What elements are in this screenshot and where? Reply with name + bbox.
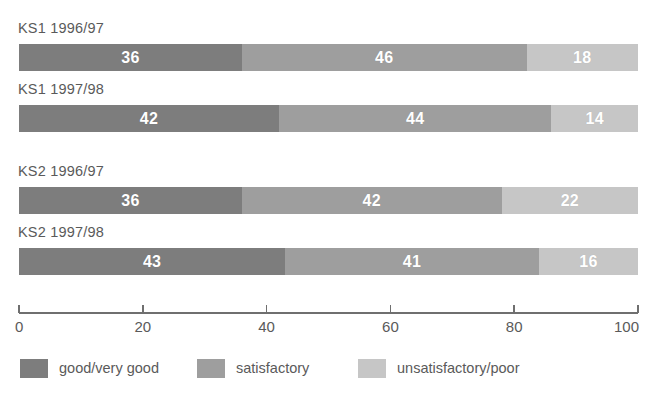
stacked-bar: 424414 [19, 105, 638, 132]
axis-tick-label: 0 [15, 318, 23, 335]
legend-swatch-icon [358, 359, 386, 378]
bar-segment: 22 [502, 187, 638, 214]
bar-segment-value: 36 [121, 193, 139, 209]
bar-segment-value: 14 [585, 111, 603, 127]
bar-group-label: KS2 1997/98 [18, 224, 104, 240]
bar-segment: 42 [19, 105, 279, 132]
bar-segment: 44 [279, 105, 551, 132]
bar-segment: 14 [551, 105, 638, 132]
bar-segment: 16 [539, 248, 638, 275]
bar-segment-value: 41 [403, 254, 421, 270]
legend-swatch-icon [197, 359, 225, 378]
bar-group-label: KS2 1996/97 [18, 163, 104, 179]
legend-item[interactable]: good/very good [20, 356, 159, 380]
bar-segment-value: 46 [375, 50, 393, 66]
axis-tick-label: 80 [506, 318, 523, 335]
x-axis: 020406080100 [0, 300, 666, 340]
stacked-bar: 434116 [19, 248, 638, 275]
bar-segment: 18 [527, 44, 638, 71]
legend-item[interactable]: unsatisfactory/poor [358, 356, 520, 380]
bar-segment: 41 [285, 248, 539, 275]
bar-segment-value: 22 [561, 193, 579, 209]
bar-segment-value: 42 [140, 111, 158, 127]
bar-segment: 36 [19, 187, 242, 214]
legend-swatch-icon [20, 359, 48, 378]
bar-group-label: KS1 1997/98 [18, 81, 104, 97]
axis-tick [637, 305, 639, 313]
bar-segment: 36 [19, 44, 242, 71]
stacked-bar-chart: KS1 1996/97364618KS1 1997/98424414KS2 19… [0, 0, 666, 397]
axis-tick-label: 40 [258, 318, 275, 335]
axis-tick-label: 20 [134, 318, 151, 335]
bar-segment-value: 43 [143, 254, 161, 270]
bar-segment: 43 [19, 248, 285, 275]
legend-item-label: good/very good [59, 360, 159, 376]
bar-segment-value: 44 [406, 111, 424, 127]
stacked-bar: 364222 [19, 187, 638, 214]
stacked-bar: 364618 [19, 44, 638, 71]
axis-line [19, 312, 638, 314]
axis-tick-label: 100 [614, 318, 639, 335]
legend-item-label: unsatisfactory/poor [397, 360, 520, 376]
bar-segment-value: 36 [121, 50, 139, 66]
bar-segment-value: 18 [573, 50, 591, 66]
axis-tick [266, 305, 268, 313]
bar-segment: 42 [242, 187, 502, 214]
bar-group-label: KS1 1996/97 [18, 20, 104, 36]
axis-tick-label: 60 [382, 318, 399, 335]
bar-segment-value: 42 [363, 193, 381, 209]
bar-segment-value: 16 [579, 254, 597, 270]
axis-tick [18, 305, 20, 313]
axis-tick [513, 305, 515, 313]
bar-segment: 46 [242, 44, 527, 71]
axis-tick [142, 305, 144, 313]
legend-item-label: satisfactory [236, 360, 309, 376]
chart-legend: good/very goodsatisfactoryunsatisfactory… [0, 356, 666, 386]
legend-item[interactable]: satisfactory [197, 356, 309, 380]
axis-tick [390, 305, 392, 313]
